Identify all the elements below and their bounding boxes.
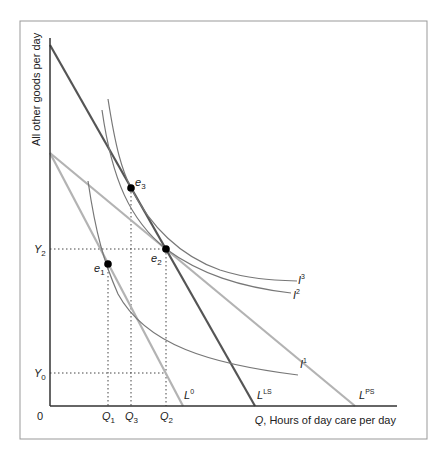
equilibrium-point-e2	[162, 245, 170, 253]
x-tick-q3: Q3	[125, 410, 139, 425]
label-lls: LLS	[257, 388, 272, 401]
label-e3: e3	[135, 176, 146, 191]
budget-line-lps	[50, 153, 355, 406]
budget-line-l0	[50, 153, 183, 406]
label-lps: LPS	[359, 388, 375, 401]
y-axis-label: All other goods per day	[30, 32, 42, 146]
y-tick-y0: Y0	[34, 367, 46, 382]
label-i3: I3	[298, 273, 305, 286]
equilibrium-point-e1	[104, 260, 112, 268]
y-tick-y2: Y2	[34, 243, 46, 258]
origin-label: 0	[37, 410, 43, 422]
indifference-curve-i2	[102, 110, 291, 293]
equilibrium-point-e3	[127, 184, 135, 192]
x-tick-q1: Q1	[102, 410, 116, 425]
label-i1: I1	[300, 357, 307, 370]
budget-line-lls	[50, 45, 255, 406]
label-i2: I2	[293, 288, 300, 301]
x-axis-label: Q, Hours of day care per day	[255, 414, 397, 426]
label-e1: e1	[94, 262, 105, 277]
x-tick-q2: Q2	[160, 410, 174, 425]
indifference-curve-i3	[108, 99, 297, 281]
label-l0: L0	[184, 388, 194, 401]
diagram-frame	[20, 21, 427, 439]
diagram-canvas: All other goods per day Q, Hours of day …	[0, 0, 442, 457]
label-e2: e2	[151, 252, 162, 267]
